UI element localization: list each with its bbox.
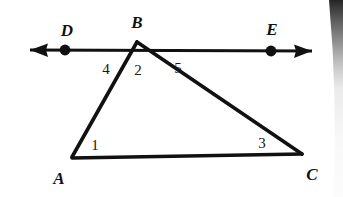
diagram-canvas	[0, 0, 343, 197]
point-dot-e	[266, 46, 277, 57]
angle-label-4: 4	[102, 62, 110, 77]
segment-ac	[72, 154, 302, 158]
segment-bc	[137, 42, 302, 154]
geometry-figure: A B C D E 1 2 3 4 5	[0, 0, 343, 197]
angle-label-3: 3	[258, 136, 266, 151]
point-label-a: A	[53, 170, 64, 187]
angle-label-5: 5	[174, 61, 182, 76]
point-label-e: E	[266, 21, 277, 38]
point-label-b: B	[131, 14, 142, 31]
point-dot-d	[60, 45, 71, 56]
arrowhead-left-icon	[30, 44, 48, 58]
angle-label-1: 1	[91, 138, 99, 153]
arrowhead-right-icon	[294, 45, 312, 59]
point-label-c: C	[306, 166, 317, 183]
triangle-abc	[72, 42, 302, 158]
segment-ab	[72, 42, 137, 157]
angle-label-2: 2	[134, 63, 142, 78]
point-label-d: D	[61, 22, 73, 39]
